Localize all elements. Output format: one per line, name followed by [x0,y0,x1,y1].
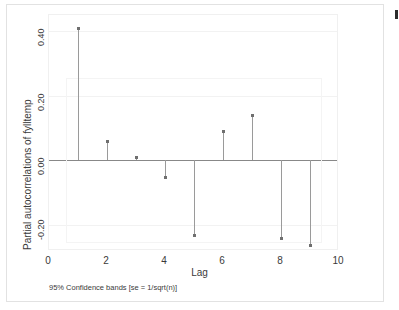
x-tick-label: 2 [91,255,121,266]
x-tick-label: 10 [323,255,353,266]
y-tick-label: 0.00 [36,158,46,176]
y-axis-title-container: Partial autocorrelations of fylltemp [16,14,28,250]
data-point-marker [135,156,138,159]
y-tick-label: 0.20 [36,93,46,111]
y-tick-label: 0.40 [36,29,46,47]
confidence-band-note: 95% Confidence bands [se = 1/sqrt(n)] [49,283,177,292]
gridline-y [49,31,337,32]
data-point-marker [164,176,167,179]
x-tick-label: 0 [33,255,63,266]
x-tick-label: 6 [207,255,237,266]
edge-artifact [395,10,398,19]
data-point-marker [222,130,225,133]
plot-area [48,14,338,250]
data-point-marker [251,114,254,117]
data-point-marker [77,27,80,30]
stem-line [223,131,224,160]
stem-line [107,141,108,160]
x-tick-label: 8 [265,255,295,266]
data-point-marker [106,140,109,143]
stem-line [78,28,79,161]
stem-line [252,115,253,160]
y-axis-title: Partial autocorrelations of fylltemp [22,99,33,250]
y-tick-label: -0.20 [36,220,46,241]
data-point-marker [280,237,283,240]
stem-line [281,160,282,238]
data-point-marker [193,234,196,237]
stem-line [194,160,195,234]
stem-line [165,160,166,176]
data-point-marker [309,244,312,247]
x-axis-title: Lag [0,267,399,278]
stem-line [310,160,311,244]
correlogram-figure: Partial autocorrelations of fylltemp -0.… [0,0,399,310]
x-tick-label: 4 [149,255,179,266]
